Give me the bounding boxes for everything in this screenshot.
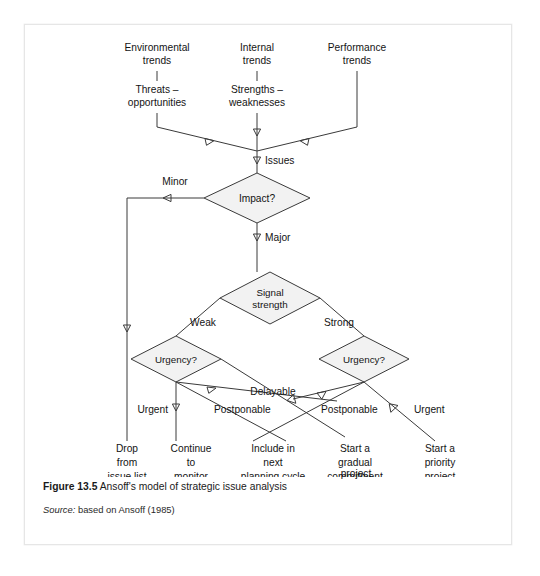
arrowhead-threats-to-issues (205, 139, 214, 146)
outcome-line: gradual (338, 457, 372, 468)
outcome-line: from (117, 457, 137, 468)
decision-signal-strength (220, 272, 320, 324)
decision-urgency-left-label: Urgency? (155, 354, 197, 365)
outcome-line: project (425, 471, 456, 477)
edge-label-weak: Weak (190, 317, 217, 328)
outcome-gradual-line4: project (311, 468, 401, 479)
outcome-line: priority (425, 457, 456, 468)
input-label-line2: trends (343, 55, 371, 66)
arrowhead-delayable-left (207, 387, 216, 393)
outcome-continue-to-monitor: Continue to monitor (171, 443, 212, 477)
arrowhead-delayable-right (317, 391, 326, 399)
sub-input-threats-opportunities: Threats – opportunities (128, 84, 186, 108)
sub-input-label-line2: opportunities (128, 97, 186, 108)
input-label-line2: trends (143, 55, 171, 66)
arrowhead-urgent-right (389, 404, 398, 413)
decision-urgency-right-label: Urgency? (343, 354, 385, 365)
edge-label-minor: Minor (162, 176, 188, 187)
outcome-start-priority-project: Start a priority project (425, 443, 456, 477)
outcome-line: Start a (425, 443, 455, 454)
outcome-line: Start a (340, 443, 370, 454)
figure-title: Ansoff's model of strategic issue analys… (100, 481, 287, 492)
source-text: based on Ansoff (1985) (78, 504, 175, 515)
edge-label-postponable-right: Postponable (321, 404, 378, 415)
input-label-line1: Environmental (124, 42, 189, 53)
edge-label-strong: Strong (324, 317, 354, 328)
arrowhead-performance-to-issues (300, 139, 309, 146)
outcome-line: monitor (174, 471, 209, 477)
edge-label-postponable-left: Postponable (214, 404, 271, 415)
edge-label-major: Major (265, 232, 291, 243)
sub-input-label-line1: Threats – (135, 84, 178, 95)
ansoff-flowchart: Environmental trends Internal trends Per… (25, 25, 513, 477)
outcome-drop-from-issue-list: Drop from issue list (107, 443, 146, 477)
node-issues-label: Issues (265, 155, 294, 166)
decision-impact-label: Impact? (239, 193, 276, 204)
input-label-line1: Internal (240, 42, 274, 53)
figure-caption-block: Figure 13.5 Ansoff's model of strategic … (43, 480, 493, 517)
outcome-line: Drop (116, 443, 138, 454)
input-environmental-trends: Environmental trends (124, 42, 189, 66)
input-label-line1: Performance (328, 42, 387, 53)
figure-number: Figure 13.5 (43, 481, 97, 492)
outcome-line: to (187, 457, 196, 468)
figure-source: Source: based on Ansoff (1985) (43, 504, 493, 516)
sub-input-label-line2: weaknesses (228, 97, 285, 108)
figure-caption: Figure 13.5 Ansoff's model of strategic … (43, 480, 493, 493)
diagram-canvas: Environmental trends Internal trends Per… (25, 25, 513, 477)
sub-input-label-line1: Strengths – (231, 84, 283, 95)
edge-delayable-right (293, 382, 364, 399)
figure-card: Environmental trends Internal trends Per… (24, 24, 512, 545)
outcome-line: next (263, 457, 282, 468)
edge-label-urgent-right: Urgent (414, 404, 445, 415)
outcome-include-in-next-planning-cycle: Include in next planning cycle (241, 443, 306, 477)
input-label-line2: trends (243, 55, 271, 66)
outcome-line: Include in (251, 443, 295, 454)
outcome-line: issue list (107, 471, 146, 477)
sub-input-strengths-weaknesses: Strengths – weaknesses (228, 84, 285, 108)
decision-signal-label-line2: strength (252, 299, 287, 310)
input-internal-trends: Internal trends (240, 42, 274, 66)
outcome-line: Continue (171, 443, 212, 454)
decision-signal-label-line1: Signal (256, 287, 283, 298)
outcome-line: planning cycle (241, 471, 306, 477)
input-performance-trends: Performance trends (328, 42, 387, 66)
source-label: Source: (43, 504, 75, 515)
edge-label-urgent-left: Urgent (137, 404, 168, 415)
